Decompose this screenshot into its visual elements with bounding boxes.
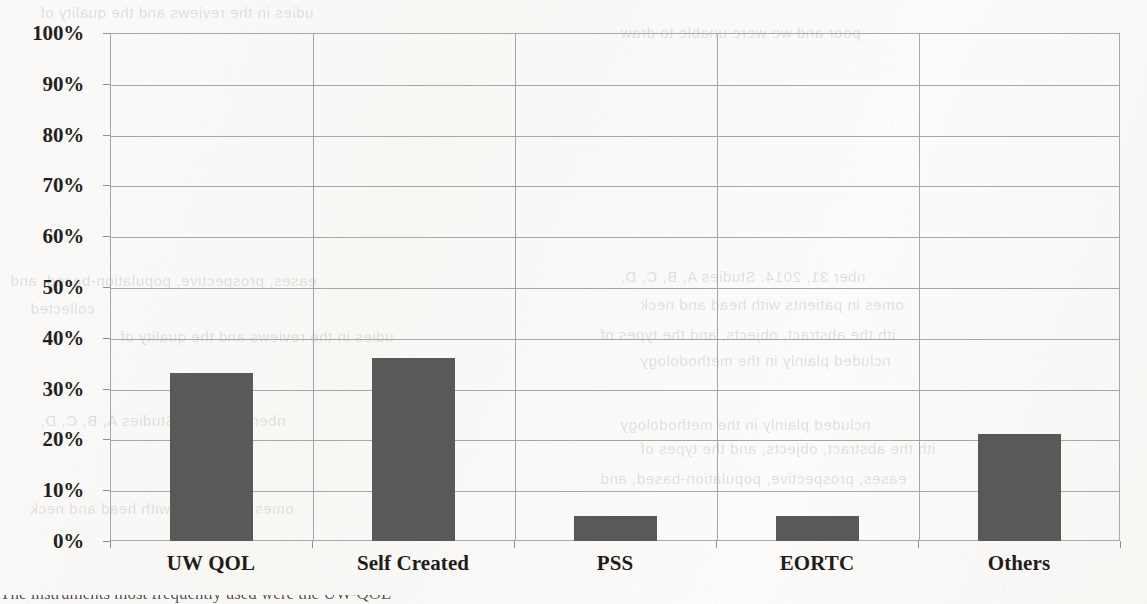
y-axis-tick-mark xyxy=(103,236,110,237)
y-axis-tick-label: 30% xyxy=(4,376,84,401)
x-axis-tick-mark xyxy=(312,541,313,548)
x-axis-tick-mark xyxy=(1120,541,1121,548)
bar-chart: 0%10%20%30%40%50%60%70%80%90%100% UW QOL… xyxy=(0,0,1147,604)
x-axis-label-self-created: Self Created xyxy=(312,551,514,576)
y-axis-tick-label: 40% xyxy=(4,325,84,350)
x-axis-label-pss: PSS xyxy=(514,551,716,576)
x-axis-tick-mark xyxy=(918,541,919,548)
y-axis-tick-mark xyxy=(103,287,110,288)
bar-pss[interactable] xyxy=(574,516,657,541)
y-axis-tick-mark xyxy=(103,389,110,390)
x-axis-tick-mark xyxy=(110,541,111,548)
x-axis-tick-mark xyxy=(716,541,717,548)
y-axis-tick-mark xyxy=(103,84,110,85)
y-axis-tick-label: 10% xyxy=(4,478,84,503)
x-axis-tick-mark xyxy=(514,541,515,548)
bar-self-created[interactable] xyxy=(372,358,455,541)
y-axis-tick-mark xyxy=(103,439,110,440)
x-axis-label-eortc: EORTC xyxy=(716,551,918,576)
y-axis-tick-label: 70% xyxy=(4,173,84,198)
y-axis-tick-label: 0% xyxy=(4,529,84,554)
bar-others[interactable] xyxy=(978,434,1061,541)
bar-series xyxy=(110,33,1120,541)
clipped-caption-remnant: The instruments most frequently used wer… xyxy=(0,595,1147,604)
y-axis-tick-label: 90% xyxy=(4,71,84,96)
y-axis-tick-label: 100% xyxy=(4,21,84,46)
caption-text: The instruments most frequently used wer… xyxy=(0,595,391,604)
y-axis-tick-mark xyxy=(103,490,110,491)
y-axis-tick-mark xyxy=(103,338,110,339)
bar-eortc[interactable] xyxy=(776,516,859,541)
x-axis-label-others: Others xyxy=(918,551,1120,576)
bar-uw-qol[interactable] xyxy=(170,373,253,541)
x-axis-label-uw-qol: UW QOL xyxy=(110,551,312,576)
y-axis-tick-label: 20% xyxy=(4,427,84,452)
y-axis-tick-label: 50% xyxy=(4,275,84,300)
y-axis-tick-mark xyxy=(103,135,110,136)
y-axis-tick-label: 80% xyxy=(4,122,84,147)
y-axis-tick-mark xyxy=(103,541,110,542)
y-axis-tick-mark xyxy=(103,33,110,34)
y-axis-tick-label: 60% xyxy=(4,224,84,249)
y-axis-tick-mark xyxy=(103,185,110,186)
